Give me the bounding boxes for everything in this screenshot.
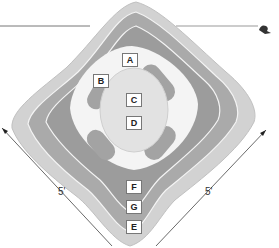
zone-label-f: F bbox=[126, 180, 142, 194]
curl-arrow-icon bbox=[259, 26, 271, 35]
zone-label-g: G bbox=[126, 200, 142, 214]
zone-label-b: B bbox=[93, 74, 109, 88]
zone-label-e: E bbox=[126, 220, 142, 234]
zone-label-c: C bbox=[126, 93, 142, 107]
center-zone bbox=[100, 68, 168, 152]
zone-label-d: D bbox=[126, 116, 142, 130]
dimension-label-right: 5' bbox=[205, 186, 212, 197]
zone-label-a: A bbox=[122, 53, 138, 67]
dimension-label-left: 5' bbox=[58, 186, 65, 197]
diagram-canvas: A B C D F G E 5' 5' bbox=[0, 0, 279, 248]
